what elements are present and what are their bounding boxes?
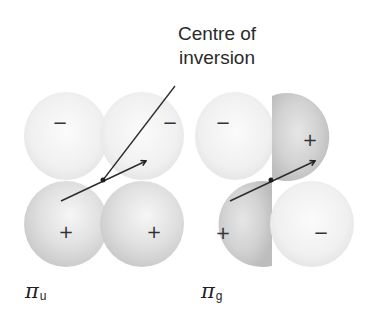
pi-u-sign-bottom-right: + (146, 223, 162, 241)
pi-g-subscript: g (216, 289, 223, 303)
pi-g-sign-bottom-right: − (313, 224, 329, 242)
callout-line-1: Centre of (150, 22, 284, 46)
pi-u-sign-bottom-left: + (58, 223, 74, 241)
pi-g-symbol: π (201, 279, 215, 303)
pi-g-centre-dot (269, 178, 274, 183)
centre-of-inversion-label: Centre of inversion (150, 22, 284, 70)
pi-u-subscript: u (40, 289, 47, 303)
callout-line-2: inversion (150, 46, 284, 70)
pi-g-sign-top-left: − (215, 114, 231, 132)
pi-u-symbol: π (25, 279, 39, 303)
pi-u-sign-top-right: − (162, 114, 178, 132)
pi-u-label: πu (25, 279, 47, 303)
pi-u-lobe-top-left (24, 92, 108, 180)
pi-g-sign-bottom-left: + (215, 224, 231, 242)
pi-g-label: πg (201, 279, 223, 303)
pi-g-lobe-bottom-right (270, 181, 354, 267)
pi-u-lobe-bottom-right (100, 181, 184, 267)
pi-u-centre-dot (101, 178, 106, 183)
pi-g-sign-top-right: + (302, 131, 318, 149)
pi-u-sign-top-left: − (52, 114, 68, 132)
pi-g-lobe-top-left (195, 92, 275, 180)
